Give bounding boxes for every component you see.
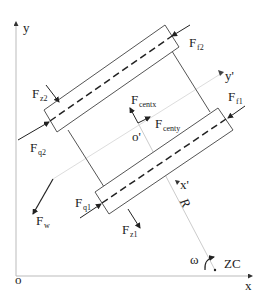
force-ff2-arrow [172, 25, 190, 36]
svg-text:centy: centy [163, 124, 180, 133]
label-ff2: F f2 [189, 35, 204, 52]
svg-text:f1: f1 [236, 97, 243, 106]
rotation-arrow [205, 257, 214, 270]
local-x-label: x' [180, 177, 189, 192]
radius-label: R [176, 195, 193, 210]
label-fz2: F z2 [32, 86, 48, 103]
svg-text:centx: centx [139, 100, 156, 109]
force-fz1-arrow [128, 209, 140, 228]
svg-text:F: F [32, 86, 39, 101]
label-fq1: F q1 [75, 195, 91, 212]
svg-text:q2: q2 [38, 148, 46, 157]
label-fw: F w [36, 213, 50, 230]
svg-text:F: F [30, 140, 37, 155]
svg-text:q1: q1 [83, 203, 91, 212]
force-fq2-arrow [18, 122, 49, 140]
origin-label: o [15, 272, 22, 287]
local-y-label: y' [225, 68, 234, 83]
svg-text:F: F [189, 35, 196, 50]
force-fz2-arrow [46, 85, 59, 102]
label-fcenty: F centy [155, 116, 180, 133]
label-fq2: F q2 [30, 140, 46, 157]
x-axis-label: x [245, 278, 252, 293]
svg-text:f2: f2 [197, 43, 204, 52]
force-ff1-arrow [228, 106, 245, 118]
svg-text:F: F [75, 195, 82, 210]
svg-text:F: F [122, 222, 129, 237]
svg-text:w: w [44, 221, 50, 230]
label-fz1: F z1 [122, 222, 138, 239]
svg-text:F: F [131, 92, 138, 107]
y-axis-label: y [23, 20, 30, 35]
turn-center-dot [214, 269, 216, 271]
tracked-vehicle-diagram: y x o o' x' y' F f2 F z2 F q2 F centx F … [0, 0, 265, 301]
svg-text:F: F [228, 89, 235, 104]
label-ff1: F f1 [228, 89, 243, 106]
local-origin-label: o' [132, 129, 141, 144]
svg-text:F: F [36, 213, 43, 228]
zc-label: ZC [224, 256, 241, 271]
svg-text:F: F [155, 116, 162, 131]
svg-text:z2: z2 [40, 94, 48, 103]
force-fcentx-arrow [130, 108, 138, 123]
label-fcentx: F centx [131, 92, 156, 109]
frame-left [68, 130, 106, 190]
svg-text:z1: z1 [130, 230, 138, 239]
omega-label: ω [190, 252, 199, 267]
force-fw-arrow [33, 179, 53, 214]
